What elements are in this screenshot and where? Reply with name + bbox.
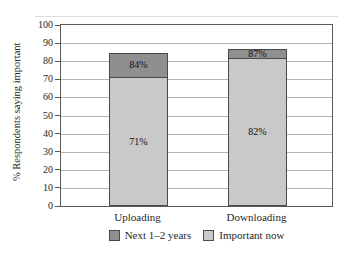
bar-downloading: 82%87%: [228, 25, 287, 206]
bar-uploading: 71%84%: [109, 25, 168, 206]
gridline: [61, 134, 332, 135]
gridline: [61, 43, 332, 44]
y-axis-tick-label: 100: [23, 19, 53, 31]
category-label-downloading: Downloading: [207, 210, 307, 224]
y-axis-tick-label: 10: [23, 182, 53, 194]
legend-label: Next 1–2 years: [125, 229, 192, 242]
gridline: [61, 61, 332, 62]
y-axis-tick-label: 80: [23, 55, 53, 67]
legend-item: Next 1–2 years: [109, 229, 192, 242]
gridline: [61, 79, 332, 80]
gridline: [61, 97, 332, 98]
plot-area: 71%84%82%87%: [60, 24, 333, 207]
bar-value-label: 71%: [109, 136, 168, 148]
legend-swatch: [203, 230, 214, 241]
y-axis-tick-label: 70: [23, 73, 53, 85]
figure: % Respondents saying important 010203040…: [0, 0, 351, 257]
gridline: [61, 188, 332, 189]
gridline: [61, 116, 332, 117]
y-axis-tick-label: 20: [23, 164, 53, 176]
y-axis-tick-label: 90: [23, 37, 53, 49]
y-axis-tick-label: 50: [23, 110, 53, 122]
x-axis-labels: UploadingDownloading: [0, 210, 351, 224]
y-axis-tick-label: 40: [23, 128, 53, 140]
bar-value-label: 87%: [228, 48, 287, 60]
gridline: [61, 170, 332, 171]
legend: Next 1–2 yearsImportant now: [60, 228, 333, 242]
top-rule-divider: [35, 16, 338, 17]
y-axis: 0102030405060708090100: [0, 24, 60, 207]
category-label-uploading: Uploading: [88, 210, 188, 224]
bar-value-label: 84%: [109, 59, 168, 71]
bar-value-label: 82%: [228, 126, 287, 138]
legend-label: Important now: [219, 229, 284, 242]
legend-item: Important now: [203, 229, 284, 242]
y-axis-tick-label: 30: [23, 146, 53, 158]
y-axis-tick-label: 60: [23, 91, 53, 103]
gridline: [61, 152, 332, 153]
legend-swatch: [109, 230, 120, 241]
